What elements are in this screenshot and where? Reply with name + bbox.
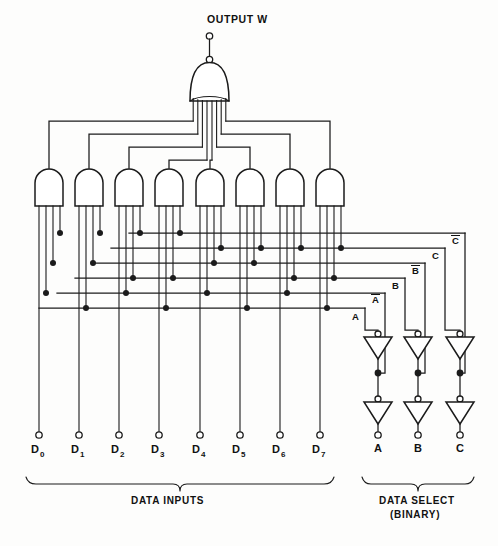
data-terminal-2[interactable]: [116, 432, 122, 438]
schematic-canvas: OUTPUT W: [0, 0, 498, 546]
inverter-B1-bubble: [415, 331, 421, 337]
inverter-C2-body: [446, 402, 474, 424]
route-and4: [210, 160, 212, 168]
data-label-sub-4: 4: [201, 450, 206, 459]
data-terminal-3[interactable]: [156, 432, 162, 438]
select-terminal-C[interactable]: [457, 432, 463, 438]
inverter-A1-bubble: [375, 331, 381, 337]
route-and2: [129, 147, 202, 168]
data-terminal-4[interactable]: [197, 432, 203, 438]
inverter-B1-body: [404, 337, 432, 359]
data-terminal-1[interactable]: [76, 432, 82, 438]
and-to-or-routing: [49, 121, 330, 168]
route-and3: [169, 160, 207, 168]
data-select-group: DATA SELECT (BINARY): [362, 477, 474, 520]
data-terminal-0[interactable]: [36, 432, 42, 438]
inverter-B2-bubble: [415, 396, 421, 402]
data-select-bracket: [362, 477, 474, 491]
and-gate-0[interactable]: [35, 169, 63, 206]
data-input-label-2: D 2: [111, 443, 125, 459]
data-label-sub-7: 7: [321, 450, 326, 459]
select-line-bus: [39, 233, 465, 308]
or-gate-body: [190, 63, 229, 102]
route-and7: [226, 121, 330, 168]
data-label-sub-0: 0: [40, 450, 45, 459]
data-label-letter-0: D: [31, 443, 39, 455]
inverter-column-B: B: [404, 331, 432, 454]
data-input-label-6: D 6: [272, 443, 286, 459]
and-gate-2[interactable]: [115, 169, 143, 206]
select-port-label-A: A: [374, 442, 382, 454]
route-and6: [221, 134, 290, 168]
data-label-letter-5: D: [232, 443, 240, 455]
data-label-sub-1: 1: [80, 450, 85, 459]
route-select-A: [365, 308, 378, 330]
and-gate-3[interactable]: [155, 169, 183, 206]
and-gate-input-verticals: [39, 206, 341, 432]
data-label-letter-7: D: [312, 443, 320, 455]
inverter-C2-bubble: [457, 396, 463, 402]
select-terminal-B[interactable]: [415, 432, 421, 438]
select-label-C-bar: C: [452, 235, 459, 246]
select-label-B: B: [392, 280, 399, 291]
select-label-B-bar: B: [412, 265, 419, 276]
data-select-subcaption: (BINARY): [390, 509, 440, 520]
and-gate-4[interactable]: [196, 169, 224, 206]
route-and0: [49, 121, 193, 168]
select-label-C: C: [432, 250, 439, 261]
data-label-letter-6: D: [272, 443, 280, 455]
data-input-label-5: D 5: [232, 443, 246, 459]
inverter-A1-body: [364, 337, 392, 359]
data-label-letter-1: D: [71, 443, 79, 455]
or-gate-input-bus: [193, 99, 226, 161]
data-input-label-1: D 1: [71, 443, 85, 459]
data-label-sub-6: 6: [281, 450, 286, 459]
data-label-sub-5: 5: [241, 450, 246, 459]
data-label-letter-3: D: [151, 443, 159, 455]
data-label-letter-4: D: [192, 443, 200, 455]
inverter-A2-bubble: [375, 396, 381, 402]
and-gate-1[interactable]: [75, 169, 103, 206]
inverter-B2-body: [404, 402, 432, 424]
select-matrix-junctions: [43, 230, 344, 311]
or-gate[interactable]: [190, 63, 229, 102]
data-terminal-5[interactable]: [237, 432, 243, 438]
data-inputs-caption: DATA INPUTS: [131, 495, 204, 506]
select-label-A: A: [352, 311, 359, 322]
inverter-C1-body: [446, 337, 474, 359]
route-and5: [217, 147, 250, 168]
and-gate-5[interactable]: [236, 169, 264, 206]
select-label-A-bar: A: [372, 294, 379, 305]
inverter-C1-bubble: [457, 331, 463, 337]
data-input-label-0: D 0: [31, 443, 45, 459]
data-input-terminals: D 0 D 1 D 2 D 3 D 4 D 5: [31, 432, 326, 459]
or-gate-output-node: [206, 56, 212, 62]
mux-logic-diagram: OUTPUT W: [0, 0, 498, 546]
inverter-column-A: A: [364, 331, 392, 454]
data-label-letter-2: D: [111, 443, 119, 455]
route-select-C: [445, 248, 460, 330]
output-terminal[interactable]: [206, 33, 212, 39]
and-gate-7[interactable]: [316, 169, 344, 206]
select-terminal-A[interactable]: [375, 432, 381, 438]
data-terminal-6[interactable]: [277, 432, 283, 438]
route-select-B: [405, 278, 418, 330]
and-gate-row: [35, 169, 344, 206]
data-select-caption: DATA SELECT: [379, 495, 455, 506]
inverter-column-C: C: [446, 331, 474, 454]
select-port-label-C: C: [456, 442, 464, 454]
data-input-label-4: D 4: [192, 443, 206, 459]
data-terminal-7[interactable]: [317, 432, 323, 438]
route-and1: [89, 134, 198, 168]
inverter-A2-body: [364, 402, 392, 424]
select-port-label-B: B: [414, 442, 422, 454]
data-label-sub-2: 2: [120, 450, 125, 459]
output-label: OUTPUT W: [207, 13, 268, 25]
data-input-label-3: D 3: [151, 443, 165, 459]
data-input-label-7: D 7: [312, 443, 326, 459]
output-section: OUTPUT W: [206, 13, 267, 63]
and-gate-6[interactable]: [276, 169, 304, 206]
select-routing-right: A A B B C C: [352, 233, 465, 373]
data-inputs-group: DATA INPUTS: [26, 477, 334, 506]
data-label-sub-3: 3: [160, 450, 165, 459]
